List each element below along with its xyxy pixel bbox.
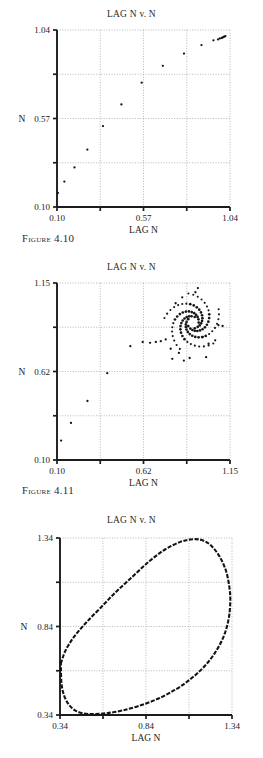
- svg-text:N: N: [21, 622, 28, 632]
- svg-text:0.34: 0.34: [37, 710, 53, 720]
- caption-number: 4.10: [54, 232, 74, 244]
- figure-4-11-block: LAG N v. N 0.100.621.150.100.621.15NLAG …: [0, 253, 263, 505]
- svg-text:0.84: 0.84: [37, 622, 53, 632]
- svg-text:0.57: 0.57: [34, 114, 50, 124]
- chart-1-plot: 0.100.571.040.100.571.04NLAG N: [0, 0, 263, 240]
- svg-text:0.10: 0.10: [34, 455, 50, 465]
- svg-text:1.34: 1.34: [224, 721, 240, 731]
- svg-text:0.57: 0.57: [136, 213, 152, 223]
- svg-text:N: N: [19, 114, 26, 124]
- svg-text:LAG N: LAG N: [129, 225, 158, 235]
- svg-text:0.62: 0.62: [34, 367, 50, 377]
- svg-text:1.04: 1.04: [222, 213, 238, 223]
- figure-4-10-caption: Figure 4.10: [22, 232, 74, 244]
- svg-text:LAG N: LAG N: [129, 478, 158, 488]
- svg-text:0.10: 0.10: [49, 466, 65, 476]
- chart-3-block: LAG N v. N 0.340.841.340.340.841.34NLAG …: [0, 505, 263, 758]
- svg-text:0.84: 0.84: [138, 721, 154, 731]
- svg-text:0.10: 0.10: [49, 213, 65, 223]
- document-page: LAG N v. N 0.100.571.040.100.571.04NLAG …: [0, 0, 263, 758]
- svg-text:1.15: 1.15: [222, 466, 238, 476]
- svg-text:0.10: 0.10: [34, 202, 50, 212]
- svg-text:0.62: 0.62: [136, 466, 152, 476]
- svg-text:0.34: 0.34: [52, 721, 68, 731]
- figure-4-11-caption: Figure 4.11: [22, 484, 74, 496]
- svg-text:N: N: [19, 367, 26, 377]
- svg-text:1.04: 1.04: [34, 25, 50, 35]
- caption-label: Figure: [22, 233, 51, 244]
- svg-text:LAG N: LAG N: [132, 733, 161, 743]
- figure-4-10-block: LAG N v. N 0.100.571.040.100.571.04NLAG …: [0, 0, 263, 253]
- chart-3-plot: 0.340.841.340.340.841.34NLAG N: [0, 505, 263, 755]
- svg-text:1.34: 1.34: [37, 533, 53, 543]
- caption-number: 4.11: [54, 484, 74, 496]
- chart-2-plot: 0.100.621.150.100.621.15NLAG N: [0, 253, 263, 491]
- caption-label: Figure: [22, 485, 51, 496]
- svg-text:1.15: 1.15: [34, 278, 50, 288]
